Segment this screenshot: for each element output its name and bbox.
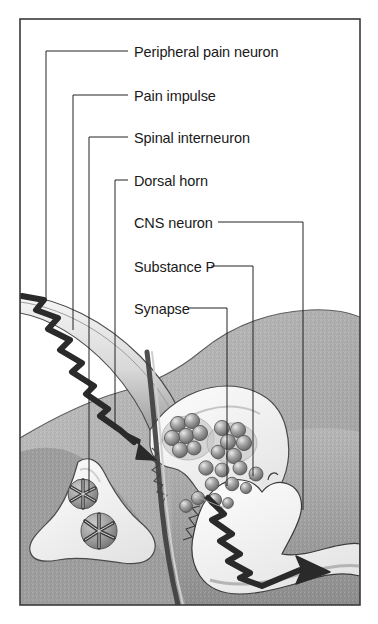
- label-substance-p: Substance P: [134, 259, 215, 275]
- label-cns-neuron: CNS neuron: [134, 215, 213, 231]
- interneuron-granule-2: [81, 513, 117, 549]
- diagram-canvas: Peripheral pain neuron Pain impulse Spin…: [0, 0, 378, 624]
- label-pain-impulse: Pain impulse: [134, 88, 216, 104]
- label-peripheral-pain-neuron: Peripheral pain neuron: [134, 44, 279, 60]
- label-synapse: Synapse: [134, 301, 190, 317]
- label-dorsal-horn: Dorsal horn: [134, 173, 208, 189]
- pain-synapse-diagram: Peripheral pain neuron Pain impulse Spin…: [0, 0, 378, 624]
- label-spinal-interneuron: Spinal interneuron: [134, 130, 250, 146]
- interneuron-granule-1: [68, 479, 98, 509]
